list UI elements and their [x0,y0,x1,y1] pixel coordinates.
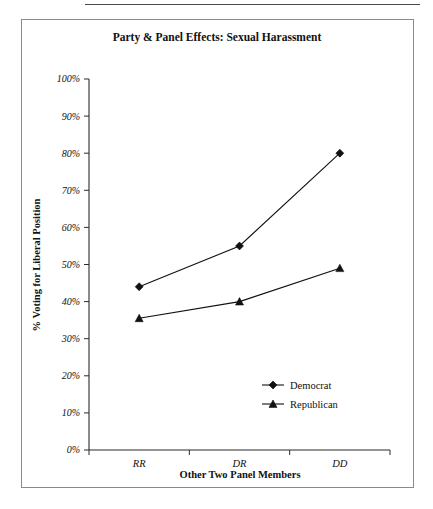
y-tick-label: 0% [67,444,80,455]
series-line-democrat [139,153,340,287]
line-chart: Party & Panel Effects: Sexual Harassment… [0,0,433,509]
legend-marker-democrat [269,381,277,389]
y-tick-label: 10% [62,407,80,418]
y-axis-title: % Voting for Liberal Position [31,198,42,331]
legend-label-republican: Republican [290,399,339,410]
data-point-democrat [135,283,143,291]
x-category-label: RR [132,458,146,469]
data-point-republican [336,264,344,271]
y-tick-label: 80% [62,148,80,159]
y-tick-label: 90% [62,111,80,122]
y-tick-label: 60% [62,222,80,233]
y-tick-label: 50% [62,259,80,270]
chart-legend: DemocratRepublican [262,380,339,410]
data-series-group [135,149,344,321]
y-tick-label: 20% [62,370,80,381]
y-tick-label: 40% [62,296,80,307]
x-axis-ticks [89,450,390,455]
y-tick-label: 70% [62,185,80,196]
x-axis-title: Other Two Panel Members [179,469,300,480]
y-axis-ticks: 0%10%20%30%40%50%60%70%80%90%100% [57,73,89,455]
y-tick-label: 100% [57,73,80,84]
chart-title: Party & Panel Effects: Sexual Harassment [113,31,322,44]
y-tick-label: 30% [61,333,80,344]
data-point-republican [236,298,244,305]
legend-label-democrat: Democrat [290,380,331,391]
series-line-republican [139,268,340,318]
x-category-label: DR [232,458,248,469]
x-axis-category-labels: RRDRDD [132,458,348,469]
x-category-label: DD [331,458,348,469]
